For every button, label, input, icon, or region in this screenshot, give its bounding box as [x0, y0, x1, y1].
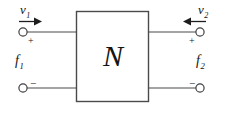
label-v2-subscript: 2: [204, 11, 208, 20]
label-v1: v1: [20, 3, 30, 20]
label-f1: f1: [15, 54, 24, 70]
polarity-sign-left-bottom: −: [30, 78, 36, 89]
label-f1-subscript: 1: [19, 61, 23, 71]
terminal-circle-right-bottom: [196, 84, 204, 92]
terminal-circle-right-top: [196, 28, 204, 36]
polarity-sign-right-bottom: −: [189, 78, 195, 89]
two-port-network-diagram: v1 v2 f1 f2 N + − + −: [0, 0, 225, 115]
label-v1-subscript: 1: [26, 11, 30, 20]
label-f2: f2: [196, 54, 205, 70]
polarity-sign-left-top: +: [28, 36, 34, 46]
network-block-label: N: [103, 41, 123, 71]
label-f2-subscript: 2: [200, 61, 204, 71]
polarity-sign-right-top: +: [189, 36, 195, 46]
terminal-circle-left-bottom: [19, 84, 27, 92]
label-v2-symbol: v: [198, 2, 204, 17]
label-v2: v2: [198, 3, 208, 20]
terminal-circle-left-top: [19, 28, 27, 36]
label-v1-symbol: v: [20, 2, 26, 17]
